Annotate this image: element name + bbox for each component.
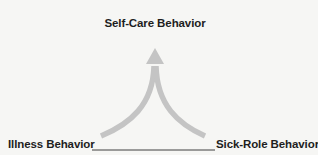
left-curved-arrow xyxy=(101,66,154,136)
illness-behavior-label: Illness Behavior xyxy=(8,138,95,150)
right-curved-arrow xyxy=(156,66,205,136)
converging-arrow-diagram xyxy=(0,0,318,155)
sick-role-behavior-label: Sick-Role Behavior xyxy=(216,138,318,150)
arrowhead-up-icon xyxy=(146,48,164,64)
